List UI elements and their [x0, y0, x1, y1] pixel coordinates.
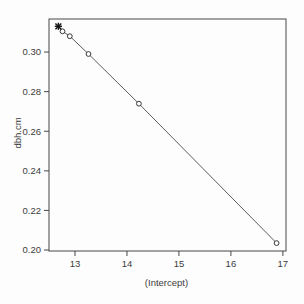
y-axis-label: dbh.cm: [12, 117, 23, 148]
data-point-circle: [67, 34, 72, 39]
x-tick-label: 14: [122, 258, 133, 269]
highlight-marker-layer: [55, 23, 62, 30]
y-tick-label: 0.22: [23, 205, 42, 216]
y-axis: 0.200.220.240.260.280.30: [23, 46, 50, 255]
data-point-circle: [274, 241, 279, 246]
scatter-plot-figure: 1314151617 0.200.220.240.260.280.30 (Int…: [0, 0, 304, 304]
x-tick-label: 13: [70, 258, 81, 269]
data-point-circle: [137, 101, 142, 106]
x-axis-label: (Intercept): [145, 277, 188, 288]
series-line: [58, 26, 276, 243]
y-tick-label: 0.26: [23, 126, 42, 137]
y-tick-label: 0.20: [23, 244, 42, 255]
x-tick-label: 16: [226, 258, 237, 269]
data-series: [58, 26, 279, 245]
data-point-circle: [86, 52, 91, 57]
star-marker: [55, 23, 62, 30]
x-tick-label: 17: [278, 258, 289, 269]
star-center-dot: [57, 25, 60, 28]
x-tick-label: 15: [174, 258, 185, 269]
y-tick-label: 0.30: [23, 46, 42, 57]
x-axis: 1314151617: [70, 251, 288, 269]
y-tick-label: 0.24: [23, 165, 42, 176]
y-tick-label: 0.28: [23, 86, 42, 97]
plot-canvas: 1314151617 0.200.220.240.260.280.30 (Int…: [0, 0, 304, 304]
